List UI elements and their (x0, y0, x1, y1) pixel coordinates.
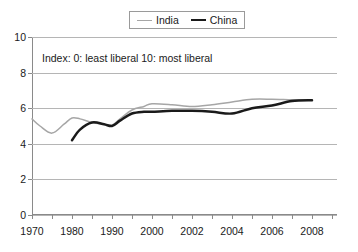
y-tick-label-4: 4 (20, 139, 26, 150)
x-tick-label-1990: 1990 (100, 226, 123, 237)
plot-area: 0246810 19701980199020002002200420062008… (32, 37, 337, 215)
x-tick-label-1980: 1980 (60, 226, 83, 237)
x-tick-mark (312, 215, 313, 219)
x-tick-mark (132, 215, 133, 219)
x-tick-mark (112, 215, 113, 219)
x-tick-label-1970: 1970 (20, 226, 43, 237)
legend-item-india: India (137, 15, 179, 26)
legend-item-china: China (191, 15, 237, 26)
x-tick-mark (252, 215, 253, 219)
x-tick-mark (192, 215, 193, 219)
y-tick-label-10: 10 (14, 32, 26, 43)
x-tick-mark (232, 215, 233, 219)
x-tick-mark (92, 215, 93, 219)
x-tick-mark (172, 215, 173, 219)
x-tick-mark (152, 215, 153, 219)
y-tick-label-0: 0 (20, 210, 26, 221)
y-tick-label-2: 2 (20, 174, 26, 185)
x-tick-label-2008: 2008 (300, 226, 323, 237)
x-tick-label-2006: 2006 (260, 226, 283, 237)
x-tick-mark (52, 215, 53, 219)
chart-legend: India China (129, 11, 245, 29)
x-tick-mark (72, 215, 73, 219)
legend-label-china: China (210, 15, 237, 26)
x-tick-label-2002: 2002 (180, 226, 203, 237)
x-tick-mark (32, 215, 33, 219)
y-tick-label-6: 6 (20, 103, 26, 114)
x-tick-mark (272, 215, 273, 219)
series-line-india (32, 99, 312, 133)
x-tick-label-2000: 2000 (140, 226, 163, 237)
x-tick-mark (212, 215, 213, 219)
legend-swatch-india-icon (137, 20, 152, 21)
legend-label-india: India (156, 15, 179, 26)
x-tick-label-2004: 2004 (220, 226, 243, 237)
line-chart: India China 0246810 19701980199020002002… (0, 0, 358, 252)
x-tick-mark (292, 215, 293, 219)
legend-swatch-china-icon (191, 19, 206, 21)
y-tick-label-8: 8 (20, 67, 26, 78)
series-lines (32, 37, 337, 215)
x-tick-mark (332, 215, 333, 219)
